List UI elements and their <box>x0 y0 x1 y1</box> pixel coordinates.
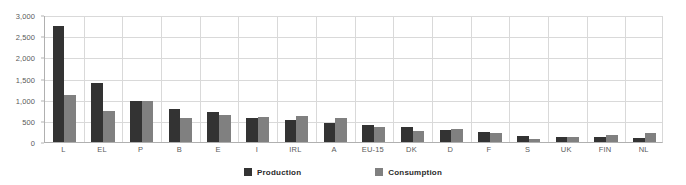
legend-swatch-icon <box>244 168 252 176</box>
bar-consumption-b <box>180 118 192 142</box>
x-axis-tick-label: P <box>138 145 143 154</box>
bar-consumption-irl <box>296 116 308 142</box>
x-axis-tick-label: A <box>332 145 337 154</box>
x-axis-tick-label: I <box>256 145 258 154</box>
bar-group <box>401 16 424 142</box>
bar-consumption-a <box>335 118 347 142</box>
x-axis-tick-label: NL <box>639 145 649 154</box>
x-axis-tick-label: E <box>215 145 220 154</box>
y-axis-tick-label: 3,000 <box>16 12 35 21</box>
bar-production-l <box>53 26 65 142</box>
bar-consumption-nl <box>645 133 657 142</box>
bar-production-eu-15 <box>362 125 374 142</box>
bar-consumption-f <box>490 133 502 142</box>
y-axis-tick-label: 2,000 <box>16 54 35 63</box>
chart-legend: ProductionConsumption <box>0 164 686 180</box>
bar-consumption-p <box>142 101 154 142</box>
bar-production-uk <box>556 137 568 142</box>
y-axis-tick-label: 1,000 <box>16 96 35 105</box>
bar-group <box>478 16 501 142</box>
x-axis-tick-label: B <box>177 145 182 154</box>
y-axis-tick-label: 2,500 <box>16 33 35 42</box>
x-axis-tick-label: S <box>525 145 530 154</box>
legend-item-consumption[interactable]: Consumption <box>375 168 442 177</box>
bar-production-d <box>440 130 452 142</box>
bar-group <box>130 16 153 142</box>
x-axis-tick-label: EU-15 <box>362 145 384 154</box>
y-axis-tick-label: 500 <box>22 117 35 126</box>
bar-production-i <box>246 118 258 142</box>
bar-group <box>517 16 540 142</box>
bar-consumption-d <box>451 129 463 142</box>
x-axis-tick-label: UK <box>561 145 572 154</box>
x-axis-tick-label: D <box>447 145 453 154</box>
bar-group <box>594 16 617 142</box>
bar-production-f <box>478 132 490 142</box>
bar-production-el <box>91 83 103 142</box>
bar-consumption-i <box>258 117 270 142</box>
bar-production-nl <box>633 138 645 142</box>
bar-chart: 05001,0001,5002,0002,5003,000 LELPBEIIRL… <box>0 0 686 185</box>
bar-production-b <box>169 109 181 142</box>
legend-swatch-icon <box>375 168 383 176</box>
y-axis-tick-label: 1,500 <box>16 75 35 84</box>
x-axis-tick-label: IRL <box>289 145 301 154</box>
bar-consumption-uk <box>567 137 579 143</box>
bar-group <box>169 16 192 142</box>
bar-group <box>440 16 463 142</box>
bar-production-fin <box>594 137 606 142</box>
legend-label: Consumption <box>388 168 442 177</box>
x-axis-tick-label: EL <box>97 145 107 154</box>
bar-consumption-dk <box>413 131 425 142</box>
bar-group <box>556 16 579 142</box>
bar-consumption-l <box>64 95 76 142</box>
y-axis: 05001,0001,5002,0002,5003,000 <box>0 16 40 143</box>
y-axis-tick-label: 0 <box>31 139 35 148</box>
bar-consumption-el <box>103 111 115 142</box>
legend-label: Production <box>257 168 301 177</box>
bar-production-dk <box>401 127 413 142</box>
bar-production-e <box>207 112 219 142</box>
bar-group <box>53 16 76 142</box>
bar-group <box>207 16 230 142</box>
plot-panel <box>44 16 663 143</box>
bar-consumption-s <box>529 139 541 142</box>
bar-production-irl <box>285 120 297 142</box>
bar-consumption-e <box>219 115 231 142</box>
legend-item-production[interactable]: Production <box>244 168 301 177</box>
bars-layer <box>45 16 662 142</box>
bar-group <box>91 16 114 142</box>
x-axis-tick-label: L <box>61 145 65 154</box>
bar-group <box>324 16 347 142</box>
x-axis-tick-label: DK <box>406 145 417 154</box>
bar-group <box>285 16 308 142</box>
bar-consumption-fin <box>606 135 618 142</box>
x-axis-tick-label: F <box>487 145 492 154</box>
x-axis-tick-label: FIN <box>599 145 612 154</box>
bar-production-a <box>324 123 336 142</box>
bar-group <box>246 16 269 142</box>
x-axis: LELPBEIIRLAEU-15DKDFSUKFINNL <box>44 145 663 159</box>
bar-production-s <box>517 136 529 142</box>
plot-area: 05001,0001,5002,0002,5003,000 LELPBEIIRL… <box>0 0 686 150</box>
bar-group <box>633 16 656 142</box>
bar-consumption-eu-15 <box>374 127 386 142</box>
bar-group <box>362 16 385 142</box>
bar-production-p <box>130 101 142 142</box>
